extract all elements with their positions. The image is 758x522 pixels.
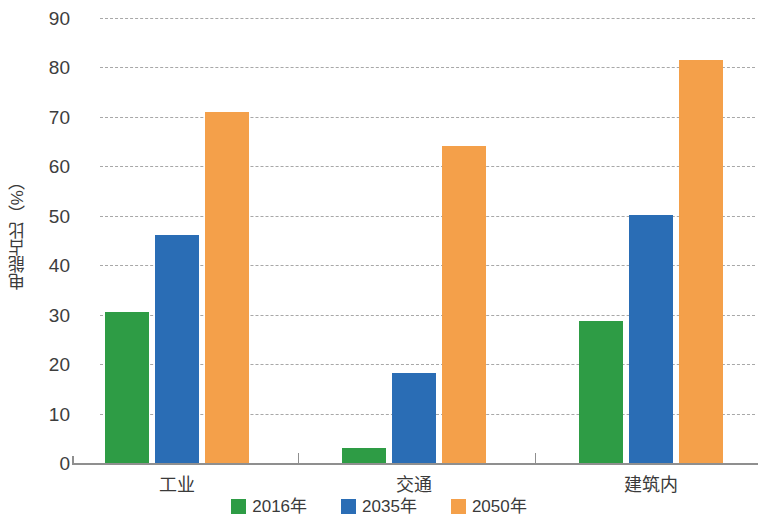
y-tick-label-50: 50 <box>24 206 70 225</box>
x-axis-line <box>72 463 758 465</box>
y-tick-label-70: 70 <box>24 107 70 126</box>
bar-建筑内-2050年 <box>679 60 723 463</box>
legend-swatch-icon <box>231 499 246 514</box>
bar-建筑内-2035年 <box>629 215 673 463</box>
y-tick-label-80: 80 <box>24 58 70 77</box>
legend-label: 2050年 <box>472 498 527 515</box>
bar-建筑内-2016年 <box>579 321 623 463</box>
bar-交通-2035年 <box>392 373 436 463</box>
y-axis-origin-cap <box>72 456 74 463</box>
y-tick-label-10: 10 <box>24 404 70 423</box>
y-tick-label-0: 0 <box>24 454 70 473</box>
legend-swatch-icon <box>341 499 356 514</box>
bar-chart: 电能占比（%） 0102030405060708090 工业交通建筑内 2016… <box>0 0 758 522</box>
y-axis-title-text: 电能占比（%） <box>9 173 26 290</box>
bars-layer <box>80 0 758 463</box>
legend-item-1[interactable]: 2035年 <box>341 498 417 515</box>
y-tick-label-40: 40 <box>24 256 70 275</box>
legend-item-0[interactable]: 2016年 <box>231 498 307 515</box>
legend-label: 2016年 <box>252 498 307 515</box>
x-axis-tick-1 <box>298 453 299 463</box>
bar-工业-2050年 <box>205 112 249 463</box>
bar-交通-2050年 <box>442 146 486 463</box>
category-label-2: 建筑内 <box>624 470 678 496</box>
y-tick-label-90: 90 <box>24 9 70 28</box>
bar-交通-2016年 <box>342 448 386 463</box>
legend-label: 2035年 <box>362 498 417 515</box>
category-label-1: 交通 <box>396 470 432 496</box>
legend-item-2[interactable]: 2050年 <box>451 498 527 515</box>
y-tick-label-30: 30 <box>24 305 70 324</box>
chart-legend: 2016年2035年2050年 <box>0 498 758 515</box>
y-tick-label-60: 60 <box>24 157 70 176</box>
bar-工业-2035年 <box>155 235 199 463</box>
legend-swatch-icon <box>451 499 466 514</box>
bar-工业-2016年 <box>105 312 149 463</box>
category-label-0: 工业 <box>159 470 195 496</box>
y-tick-label-20: 20 <box>24 355 70 374</box>
x-axis-tick-2 <box>535 453 536 463</box>
